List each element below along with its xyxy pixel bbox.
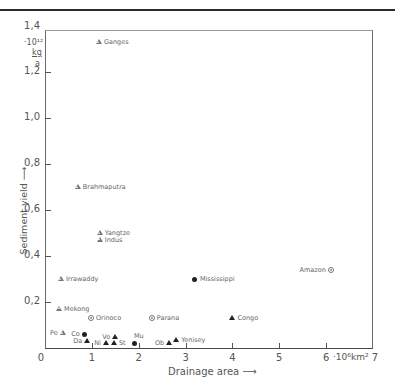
y-unit-exponent: ·10¹² — [24, 38, 43, 47]
arrow-icon: ⟶ — [18, 167, 29, 181]
x-tick-label: 4 — [222, 352, 242, 363]
triangle-open-marker-icon — [60, 330, 66, 335]
y-tick-label: 0,8 — [10, 157, 40, 168]
triangle-open-marker-icon — [75, 184, 81, 189]
circle-open-marker-icon — [149, 315, 155, 321]
x-tick-label: 2 — [129, 352, 149, 363]
triangle-open-marker-icon — [97, 237, 103, 242]
point-label: Brahmaputra — [83, 183, 126, 191]
x-tick-mark — [92, 343, 93, 349]
x-tick-mark — [279, 343, 280, 349]
point-label: Ni — [94, 339, 101, 347]
triangle-filled-marker-icon — [166, 340, 172, 345]
x-tick-label: 0 — [31, 352, 51, 363]
top-rule — [0, 9, 395, 11]
triangle-open-marker-icon — [58, 276, 64, 281]
y-tick-mark — [45, 210, 51, 211]
circle-open-marker-icon — [88, 315, 94, 321]
y-tick-mark — [45, 118, 51, 119]
y-tick-mark — [45, 256, 51, 257]
x-tick-label: 7 — [365, 352, 385, 363]
point-label: Congo — [237, 314, 258, 322]
point-label: Vo — [102, 333, 110, 341]
x-axis-title: Drainage area ⟶ — [168, 366, 257, 377]
y-tick-label: 1,0 — [10, 111, 40, 122]
point-label: Ob — [155, 339, 164, 347]
point-label: Indus — [105, 236, 123, 244]
arrow-icon: ⟶ — [242, 366, 256, 377]
point-label: Da — [73, 337, 82, 345]
x-tick-label: 1 — [82, 352, 102, 363]
triangle-filled-marker-icon — [229, 315, 235, 320]
y-tick-label: 0,2 — [10, 295, 40, 306]
triangle-filled-marker-icon — [111, 340, 117, 345]
y-tick-mark — [45, 164, 51, 165]
y-tick-label: 1,2 — [10, 65, 40, 76]
point-label: Pe — [50, 329, 58, 337]
point-label: Mississippi — [200, 275, 235, 283]
point-label: Amazon — [300, 266, 326, 274]
x-tick-mark — [326, 343, 327, 349]
y-tick-label: 1,4 — [10, 20, 40, 31]
x-unit: ·10⁶km² — [333, 352, 369, 362]
point-label: Irrawaddy — [66, 275, 99, 283]
triangle-open-marker-icon — [56, 306, 62, 311]
y-unit-numerator: kg — [32, 48, 42, 57]
triangle-open-marker-icon — [97, 230, 103, 235]
x-tick-label: 3 — [176, 352, 196, 363]
point-label: Orinoco — [96, 314, 121, 322]
triangle-filled-marker-icon — [112, 334, 118, 339]
y-tick-mark — [45, 302, 51, 303]
x-tick-mark — [232, 343, 233, 349]
y-tick-label: 0,6 — [10, 203, 40, 214]
circle-filled-marker-icon — [132, 341, 137, 346]
x-tick-label: 5 — [269, 352, 289, 363]
x-tick-mark — [139, 343, 140, 349]
circle-open-marker-icon — [328, 267, 334, 273]
triangle-open-marker-icon — [96, 39, 102, 44]
y-tick-mark — [45, 72, 51, 73]
triangle-filled-marker-icon — [103, 340, 109, 345]
triangle-filled-marker-icon — [173, 337, 179, 342]
point-label: Yenisey — [181, 336, 205, 344]
point-label: Mu — [134, 332, 144, 340]
triangle-filled-marker-icon — [84, 338, 90, 343]
point-label: Ganges — [104, 38, 129, 46]
y-tick-label: 0,4 — [10, 249, 40, 260]
point-label: Parana — [157, 314, 179, 322]
x-tick-label: 6 — [316, 352, 336, 363]
point-label: Mekong — [64, 305, 89, 313]
point-label: St — [119, 339, 126, 347]
